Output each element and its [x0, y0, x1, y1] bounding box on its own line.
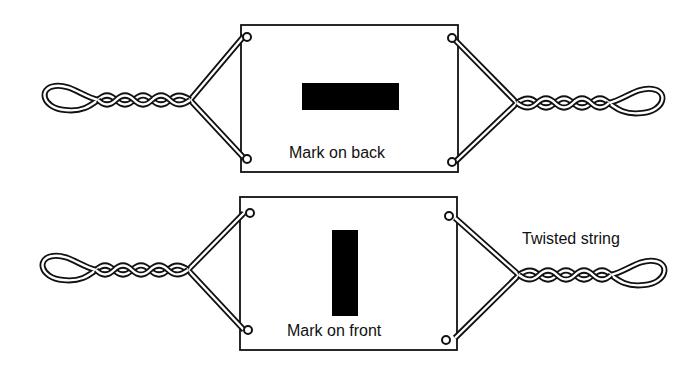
bottom-card-label: Mark on front	[287, 322, 381, 340]
twisted-string-card-diagram	[0, 0, 700, 375]
top-right-twisted-string	[448, 34, 662, 166]
top-left-twisted-string	[45, 33, 251, 163]
top-card-mark-horizontal	[302, 83, 399, 110]
twisted-string-annotation: Twisted string	[522, 230, 620, 248]
bottom-left-twisted-string	[43, 209, 254, 334]
top-card-label: Mark on back	[289, 144, 385, 162]
bottom-card-mark-vertical	[332, 230, 358, 316]
